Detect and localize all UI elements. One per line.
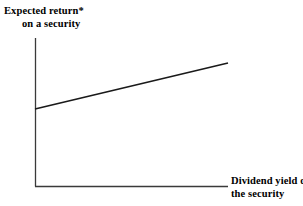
x-axis-label-line-2: the security: [231, 187, 303, 200]
y-axis-label: Expected return* on a security: [4, 4, 84, 30]
chart-figure: Expected return* on a security Dividend …: [0, 0, 303, 206]
x-axis-label-line-1: Dividend yield on: [231, 175, 303, 186]
expected-return-line: [35, 63, 228, 109]
y-axis-label-line-1: Expected return*: [4, 5, 84, 16]
y-axis-label-line-2: on a security: [4, 17, 84, 30]
x-axis-label: Dividend yield on the security: [231, 174, 303, 200]
